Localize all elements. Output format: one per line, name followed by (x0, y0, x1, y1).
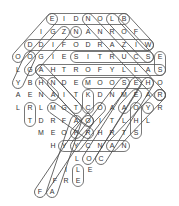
grid-letter[interactable]: D (83, 40, 93, 50)
grid-letter[interactable]: A (107, 40, 117, 50)
grid-letter[interactable]: W (143, 40, 153, 50)
grid-letter[interactable]: L (119, 65, 129, 75)
grid-letter[interactable]: O (71, 40, 81, 50)
grid-letter[interactable]: Y (107, 65, 117, 75)
grid-letter[interactable]: E (131, 90, 141, 100)
grid-letter[interactable]: L (73, 165, 83, 175)
grid-letter[interactable]: B (25, 78, 35, 88)
grid-letter[interactable]: N (107, 90, 117, 100)
grid-letter[interactable]: O (13, 52, 23, 62)
grid-letter[interactable]: O (119, 27, 129, 37)
grid-letter[interactable]: R (71, 65, 81, 75)
grid-letter[interactable]: N (83, 14, 93, 24)
grid-letter[interactable]: Y (13, 78, 23, 88)
grid-letter[interactable]: I (48, 40, 58, 50)
grid-letter[interactable]: M (83, 78, 93, 88)
grid-letter[interactable]: G (36, 52, 46, 62)
grid-letter[interactable]: M (48, 103, 58, 113)
grid-letter[interactable]: A (36, 65, 46, 75)
grid-letter[interactable]: F (131, 27, 141, 37)
grid-letter[interactable]: O (107, 78, 117, 88)
grid-letter[interactable]: A (119, 103, 129, 113)
grid-letter[interactable]: R (155, 90, 165, 100)
grid-letter[interactable]: N (95, 27, 105, 37)
grid-letter[interactable]: G (48, 27, 58, 37)
grid-letter[interactable]: D (71, 14, 81, 24)
grid-letter[interactable]: S (71, 52, 81, 62)
grid-letter[interactable]: L (143, 116, 153, 126)
grid-letter[interactable]: C (83, 103, 93, 113)
grid-letter[interactable]: F (95, 65, 105, 75)
grid-letter[interactable]: S (119, 78, 129, 88)
grid-letter[interactable]: T (59, 65, 69, 75)
grid-letter[interactable]: N (71, 27, 81, 37)
grid-letter[interactable]: R (107, 27, 117, 37)
grid-letter[interactable]: A (107, 141, 117, 151)
grid-letter[interactable]: I (59, 14, 69, 24)
grid-letter[interactable]: L (119, 116, 129, 126)
grid-letter[interactable]: A (143, 65, 153, 75)
grid-letter[interactable]: Z (119, 40, 129, 50)
grid-letter[interactable]: I (131, 40, 141, 50)
grid-letter[interactable]: Y (143, 103, 153, 113)
grid-letter[interactable]: T (71, 103, 81, 113)
grid-letter[interactable]: E (85, 165, 95, 175)
grid-letter[interactable]: R (25, 103, 35, 113)
grid-letter[interactable]: L (13, 65, 23, 75)
grid-letter[interactable]: I (36, 27, 46, 37)
grid-letter[interactable]: S (131, 128, 141, 138)
grid-letter[interactable]: C (131, 52, 141, 62)
word-search-board[interactable]: EIDNOLBIGZNANROFDDIFODRAZIWOOGIESITRUCSE… (0, 0, 179, 206)
grid-letter[interactable]: A (13, 90, 23, 100)
grid-letter[interactable]: C (83, 141, 93, 151)
grid-letter[interactable]: R (61, 176, 71, 186)
grid-letter[interactable]: N (119, 141, 129, 151)
grid-letter[interactable]: C (96, 154, 106, 164)
grid-letter[interactable]: O (83, 65, 93, 75)
grid-letter[interactable]: L (131, 65, 141, 75)
grid-letter[interactable]: O (95, 78, 105, 88)
grid-letter[interactable]: R (95, 40, 105, 50)
grid-letter[interactable]: E (48, 128, 58, 138)
grid-letter[interactable]: R (83, 128, 93, 138)
grid-letter[interactable]: E (73, 176, 83, 186)
grid-letter[interactable]: E (155, 52, 165, 62)
grid-letter[interactable]: H (48, 65, 58, 75)
grid-letter[interactable]: D (36, 40, 46, 50)
grid-letter[interactable]: E (131, 78, 141, 88)
grid-letter[interactable]: T (25, 116, 35, 126)
grid-letter[interactable]: R (107, 52, 117, 62)
grid-letter[interactable]: D (95, 90, 105, 100)
grid-letter[interactable]: L (72, 154, 82, 164)
grid-letter[interactable]: A (48, 90, 58, 100)
grid-letter[interactable]: O (95, 14, 105, 24)
grid-letter[interactable]: O (131, 103, 141, 113)
grid-letter[interactable]: S (155, 65, 165, 75)
grid-letter[interactable]: D (36, 116, 46, 126)
grid-letter[interactable]: E (25, 90, 35, 100)
grid-letter[interactable]: M (36, 128, 46, 138)
grid-letter[interactable]: I (95, 116, 105, 126)
grid-letter[interactable]: I (59, 90, 69, 100)
grid-letter[interactable]: Z (59, 27, 69, 37)
grid-letter[interactable]: L (107, 14, 117, 24)
grid-letter[interactable]: H (95, 128, 105, 138)
grid-letter[interactable]: G (59, 103, 69, 113)
grid-letter[interactable]: D (59, 78, 69, 88)
grid-letter[interactable]: S (143, 52, 153, 62)
grid-letter[interactable]: I (48, 52, 58, 62)
grid-letter[interactable]: N (48, 78, 58, 88)
grid-letter[interactable]: A (107, 103, 117, 113)
grid-letter[interactable]: A (71, 116, 81, 126)
grid-letter[interactable]: K (83, 90, 93, 100)
grid-letter[interactable]: O (95, 103, 105, 113)
grid-letter[interactable]: F (35, 187, 45, 197)
grid-letter[interactable]: N (36, 90, 46, 100)
grid-letter[interactable]: O (155, 78, 165, 88)
grid-letter[interactable]: F (59, 116, 69, 126)
grid-letter[interactable]: I (61, 165, 71, 175)
grid-letter[interactable]: B (119, 14, 129, 24)
grid-letter[interactable]: T (107, 116, 117, 126)
grid-letter[interactable]: T (119, 128, 129, 138)
grid-letter[interactable]: I (83, 52, 93, 62)
